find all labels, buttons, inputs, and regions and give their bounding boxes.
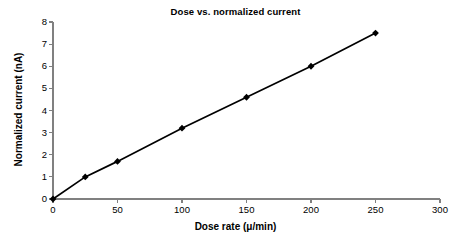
data-point-marker (308, 63, 315, 70)
data-point-marker (372, 30, 379, 37)
chart-figure: Dose vs. normalized current Normalized c… (0, 0, 471, 243)
plot-area (0, 0, 471, 243)
series-line (53, 33, 376, 199)
data-series (53, 33, 376, 199)
axes (53, 22, 440, 199)
data-point-marker (179, 125, 186, 132)
data-markers (50, 30, 379, 203)
axis-ticks (49, 22, 440, 203)
data-point-marker (114, 158, 121, 165)
data-point-marker (243, 94, 250, 101)
